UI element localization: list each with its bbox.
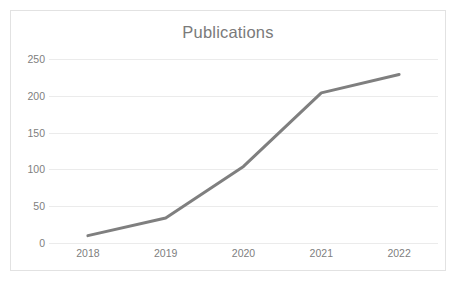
plot-area [49, 59, 438, 243]
chart-title: Publications [11, 23, 445, 42]
gridline [49, 243, 438, 244]
chart-container[interactable]: Publications 050100150200250 20182019202… [10, 10, 446, 271]
y-tick-label: 0 [11, 237, 45, 249]
y-axis: 050100150200250 [11, 59, 45, 243]
x-tick-label: 2021 [310, 247, 333, 259]
y-tick-label: 50 [11, 200, 45, 212]
line-series-svg [49, 59, 438, 243]
y-tick-label: 100 [11, 163, 45, 175]
x-tick-label: 2020 [232, 247, 255, 259]
y-tick-label: 150 [11, 127, 45, 139]
line-series-publications [88, 74, 399, 235]
x-tick-label: 2019 [154, 247, 177, 259]
x-tick-label: 2018 [76, 247, 99, 259]
x-tick-label: 2022 [387, 247, 410, 259]
x-axis: 20182019202020212022 [49, 247, 438, 267]
y-tick-label: 250 [11, 53, 45, 65]
y-tick-label: 200 [11, 90, 45, 102]
